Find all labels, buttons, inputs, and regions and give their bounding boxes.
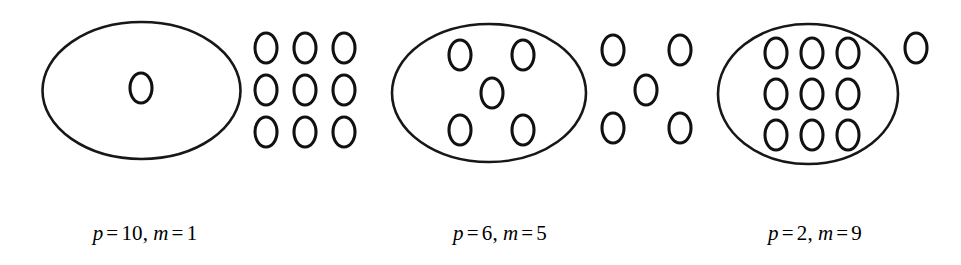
group-2-boundary-ellipse [392, 24, 586, 162]
group-3-outside-units [905, 33, 927, 63]
unit-ellipse [255, 75, 277, 105]
group-2-label-p-value: 6 [482, 221, 493, 245]
unit-ellipse [801, 79, 823, 109]
unit-ellipse [602, 113, 624, 143]
unit-ellipse [602, 35, 624, 65]
group-2-label: p=6,m=5 [400, 223, 600, 244]
unit-ellipse [449, 40, 471, 70]
group-3-label-m-value: 9 [851, 221, 862, 245]
group-1-label-p-var: p [93, 221, 104, 245]
unit-ellipse [333, 33, 355, 63]
group-1-label-m-var: m [153, 221, 168, 245]
unit-ellipse [669, 113, 691, 143]
unit-ellipse [765, 79, 787, 109]
unit-ellipse [449, 115, 471, 145]
unit-ellipse [837, 79, 859, 109]
group-2-inside-units [449, 40, 534, 145]
group-3-label-p-eq: = [782, 221, 794, 245]
group-2-label-separator: , [492, 221, 497, 245]
group-1-label-p-value: 10 [121, 221, 142, 245]
group-3-label-separator: , [807, 221, 812, 245]
unit-ellipse [294, 75, 316, 105]
unit-ellipse [765, 120, 787, 150]
unit-ellipse [333, 75, 355, 105]
group-2-label-p-var: p [453, 221, 464, 245]
group-2-outside-units [602, 35, 691, 143]
unit-ellipse [512, 40, 534, 70]
unit-ellipse [801, 120, 823, 150]
group-1-outside-units [255, 33, 355, 147]
group-3-label-p-var: p [768, 221, 779, 245]
group-3-container [718, 24, 927, 164]
unit-ellipse [837, 120, 859, 150]
unit-ellipse [294, 117, 316, 147]
group-1-label-m-eq: = [172, 221, 184, 245]
group-2-label-p-eq: = [467, 221, 479, 245]
group-2-container [392, 24, 691, 162]
group-2-label-m-var: m [503, 221, 518, 245]
group-1-boundary-ellipse [43, 22, 241, 159]
group-1-label-p-eq: = [106, 221, 118, 245]
group-1-label-separator: , [143, 221, 148, 245]
group-1-label-m-value: 1 [187, 221, 198, 245]
unit-ellipse [130, 73, 152, 103]
unit-ellipse [294, 33, 316, 63]
unit-ellipse [905, 33, 927, 63]
group-3-label-m-eq: = [836, 221, 848, 245]
unit-ellipse [333, 117, 355, 147]
unit-ellipse [669, 35, 691, 65]
group-2-label-m-value: 5 [536, 221, 547, 245]
group-3-inside-units [765, 38, 859, 150]
unit-ellipse [512, 115, 534, 145]
group-3-boundary-ellipse [718, 24, 898, 164]
unit-ellipse [801, 38, 823, 68]
group-1-label: p=10,m=1 [45, 223, 245, 244]
group-2-label-m-eq: = [521, 221, 533, 245]
unit-ellipse [255, 117, 277, 147]
unit-ellipse [765, 38, 787, 68]
unit-ellipse [481, 78, 503, 108]
group-3-label: p=2,m=9 [715, 223, 915, 244]
unit-ellipse [837, 38, 859, 68]
group-1-container [43, 22, 356, 159]
unit-ellipse [635, 75, 657, 105]
unit-ellipse [255, 33, 277, 63]
group-3-label-m-var: m [818, 221, 833, 245]
group-3-label-p-value: 2 [797, 221, 808, 245]
group-1-inside-units [130, 73, 152, 103]
place-value-grouping-figure: p=10,m=1 p=6,m=5 p=2,m=9 [0, 0, 961, 265]
